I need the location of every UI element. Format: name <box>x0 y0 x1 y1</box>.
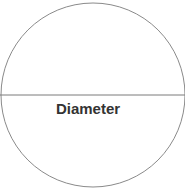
diameter-label: Diameter <box>56 100 120 117</box>
circle-diagram: Diameter <box>0 0 185 189</box>
